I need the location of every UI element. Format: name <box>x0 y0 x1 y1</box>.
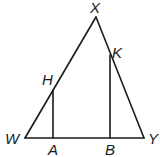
label-b: B <box>105 141 115 157</box>
label-k: K <box>112 44 123 61</box>
label-y: Y <box>148 130 159 147</box>
geometry-diagram: X W Y H K A B <box>0 0 160 157</box>
label-w: W <box>5 130 21 147</box>
label-a: A <box>47 141 58 157</box>
label-x: X <box>89 0 101 16</box>
label-h: H <box>42 71 53 88</box>
triangle-figure: X W Y H K A B <box>0 0 160 157</box>
segment-xy <box>96 17 144 138</box>
segment-wx <box>25 17 96 138</box>
